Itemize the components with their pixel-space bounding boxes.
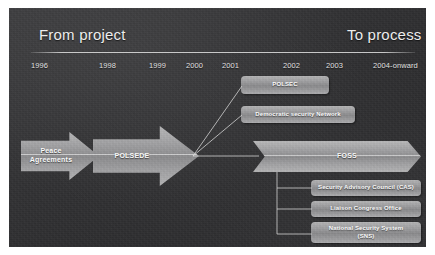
arrow-peace-label-line1: Peace — [40, 147, 61, 154]
box-polsec: POLSEC — [241, 76, 329, 94]
diagram-background: From project To process 1996199819992000… — [9, 8, 426, 247]
arrow-foss: FOSS — [253, 141, 421, 172]
timeline-year-2002: 2002 — [283, 61, 300, 70]
slide-canvas: From project To process 1996199819992000… — [0, 0, 435, 255]
arrow-polsede-label: POLSEDE — [111, 152, 154, 161]
connector-to-polsec — [193, 86, 242, 156]
timeline-year-2000: 2000 — [186, 61, 203, 70]
arrow-peace-label-line2: Agreements — [30, 156, 72, 163]
arrow-peace-label: Peace Agreements — [26, 147, 76, 165]
heading-from-project: From project — [39, 26, 126, 43]
timeline-year-1999: 1999 — [149, 61, 166, 70]
heading-to-process: To process — [347, 26, 422, 43]
box-sns-text: National Security System (SNS) — [329, 225, 403, 241]
box-democratic-security-network: Democratic security Network — [241, 106, 355, 123]
box-national-security-system: National Security System (SNS) — [311, 222, 421, 243]
timeline-year-1998: 1998 — [99, 61, 116, 70]
arrow-peace-agreements: Peace Agreements — [21, 132, 99, 180]
connector-to-dsn — [193, 115, 242, 156]
timeline-year-1996: 1996 — [31, 61, 48, 70]
timeline-year-2004-onward: 2004-onward — [373, 61, 418, 70]
box-security-advisory-council: Security Advisory Council (CAS) — [311, 180, 421, 196]
box-sns-line2: (SNS) — [358, 233, 375, 239]
timeline-year-2003: 2003 — [326, 61, 343, 70]
timeline-year-2001: 2001 — [222, 61, 239, 70]
box-liaison-congress-office: Liaison Congress Office — [311, 201, 421, 217]
arrow-foss-label: FOSS — [333, 152, 361, 161]
box-sns-line1: National Security System — [329, 225, 403, 231]
arrow-polsede: POLSEDE — [93, 126, 199, 186]
timeline-rule — [31, 52, 415, 53]
